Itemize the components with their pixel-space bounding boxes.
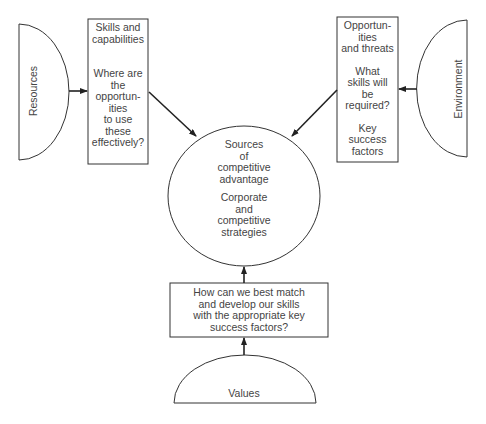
values-label: Values <box>194 388 294 400</box>
corporate-strategies: Corporate and competitive strategies <box>194 192 294 238</box>
skills-box: Skills and capabilities Where are the op… <box>88 22 148 149</box>
center-circle: Sources of competitive advantage Corpora… <box>194 139 294 238</box>
resources-label: Resources <box>27 51 39 131</box>
arrow-opportunities-to-center <box>292 90 337 136</box>
environment-label: Environment <box>452 44 464 134</box>
key-success-factors: Key success factors <box>337 123 398 158</box>
sources-of-advantage: Sources of competitive advantage <box>194 139 294 185</box>
match-box: How can we best match and develop our sk… <box>170 287 328 333</box>
arrow-skills-to-center <box>149 92 196 136</box>
skills-question: Where are the opportun- ities to use the… <box>88 68 148 149</box>
opportunities-heading: Opportun- ities and threats <box>337 20 398 55</box>
match-question: How can we best match and develop our sk… <box>170 287 328 333</box>
opportunities-question: What skills will be required? <box>337 66 398 112</box>
opportunities-box: Opportun- ities and threats What skills … <box>337 20 398 157</box>
skills-heading: Skills and capabilities <box>88 22 148 45</box>
